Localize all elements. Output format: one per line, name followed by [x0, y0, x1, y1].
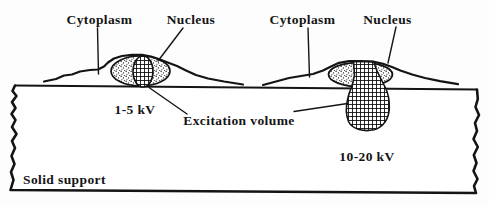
label-nucleus-left: Nucleus: [167, 12, 216, 27]
label-cytoplasm-right: Cytoplasm: [270, 12, 336, 27]
leader-cytoplasm-left: [98, 28, 99, 74]
label-voltage-low: 1-5 kV: [114, 102, 155, 117]
label-nucleus-right: Nucleus: [363, 12, 412, 27]
label-voltage-high: 10-20 kV: [339, 149, 394, 164]
left-cell: [44, 55, 243, 87]
leader-nucleus-right: [388, 27, 396, 63]
cell-excitation-diagram: Cytoplasm Nucleus Cytoplasm Nucleus 1-5 …: [0, 0, 489, 206]
leader-nucleus-left: [158, 28, 183, 61]
label-solid-support: Solid support: [23, 172, 106, 187]
figure-canvas: Cytoplasm Nucleus Cytoplasm Nucleus 1-5 …: [0, 0, 489, 206]
label-cytoplasm-left: Cytoplasm: [67, 12, 133, 27]
left-excitation-volume: [133, 56, 153, 87]
leader-cytoplasm-right: [308, 28, 310, 77]
label-excitation-volume: Excitation volume: [183, 113, 294, 128]
